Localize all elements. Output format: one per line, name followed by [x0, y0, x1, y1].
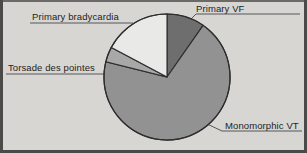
- pie-label-monomorphic-vt: Monomorphic VT: [225, 120, 299, 131]
- pie-label-primary-bradycardia: Primary bradycardia: [32, 11, 119, 22]
- pie-label-primary-vf: Primary VF: [196, 3, 245, 14]
- pie-slices: [104, 14, 230, 140]
- pie-label-torsade-des-pointes: Torsade des pointes: [8, 62, 95, 73]
- pie-chart-figure: Primary VF Primary bradycardia Torsade d…: [0, 0, 307, 153]
